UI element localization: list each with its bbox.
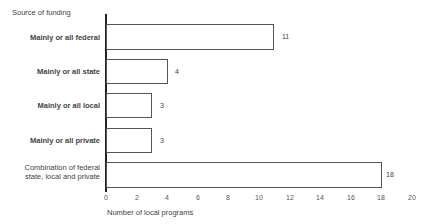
x-tick-20: 20 (408, 194, 416, 201)
value-label-federal: 11 (282, 33, 289, 40)
x-tick-12: 12 (286, 194, 294, 201)
value-label-local: 3 (160, 102, 164, 109)
category-label-private: Mainly or all private (30, 136, 100, 145)
bar-state (106, 59, 168, 84)
category-label-state: Mainly or all state (37, 67, 100, 76)
x-tick-18: 18 (377, 194, 385, 201)
category-label-combination-line2: state, local and private (25, 172, 100, 181)
x-tick-14: 14 (316, 194, 324, 201)
x-tick-8: 8 (226, 194, 230, 201)
bar-combination (106, 162, 382, 188)
bar-federal (106, 24, 274, 50)
category-label-combination: Combination of federal state, local and … (25, 163, 100, 181)
bar-private (106, 128, 152, 153)
x-axis-title: Number of local programs (107, 208, 193, 217)
x-tick-16: 16 (347, 194, 355, 201)
y-axis-title: Source of funding (12, 8, 71, 17)
category-label-federal: Mainly or all federal (30, 33, 100, 42)
category-label-local: Mainly or all local (37, 101, 100, 110)
x-tick-4: 4 (165, 194, 169, 201)
x-tick-0: 0 (104, 194, 108, 201)
value-label-private: 3 (160, 137, 164, 144)
category-label-combination-line1: Combination of federal (25, 163, 100, 172)
value-label-combination: 18 (386, 171, 394, 178)
x-tick-2: 2 (135, 194, 139, 201)
bar-local (106, 93, 152, 118)
x-tick-10: 10 (255, 194, 263, 201)
value-label-state: 4 (175, 68, 179, 75)
x-tick-6: 6 (196, 194, 200, 201)
